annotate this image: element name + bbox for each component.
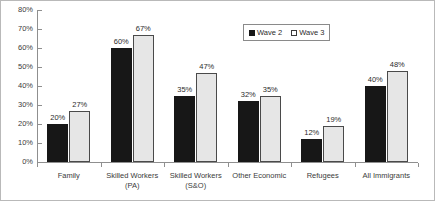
y-axis-tick-label: 60% — [0, 44, 33, 52]
legend-item-wave-2: Wave 2 — [249, 29, 282, 37]
x-axis-category-label: Refugees — [291, 171, 355, 181]
legend-label: Wave 3 — [299, 29, 324, 37]
y-axis-tick-label: 40% — [0, 82, 33, 90]
bar-wave-2 — [365, 86, 386, 162]
bar-value-label: 27% — [64, 101, 95, 109]
x-axis-category-line: (PA) — [101, 181, 165, 191]
bar-wave-3 — [387, 71, 408, 162]
bar-value-label: 48% — [382, 61, 413, 69]
y-axis-tick-label: 80% — [0, 6, 33, 14]
legend: Wave 2 Wave 3 — [243, 24, 330, 41]
x-axis-category-line: Family — [37, 171, 101, 181]
bar-chart: 0%10%20%30%40%50%60%70%80% FamilySkilled… — [0, 0, 436, 202]
x-axis-tick — [291, 163, 292, 167]
x-axis-tick — [228, 163, 229, 167]
x-axis-category-line: Refugees — [291, 171, 355, 181]
y-axis-tick-label: 30% — [0, 101, 33, 109]
bar-wave-3 — [69, 111, 90, 162]
bar-value-label: 19% — [318, 116, 349, 124]
plot-area: 20%27%60%67%35%47%32%35%12%19%40%48% — [37, 10, 418, 162]
x-axis-category-label: Other Economic — [228, 171, 292, 181]
y-axis-tick-label: 50% — [0, 63, 33, 71]
legend-item-wave-3: Wave 3 — [291, 29, 324, 37]
x-axis-category-line: Other Economic — [228, 171, 292, 181]
x-axis-tick — [101, 163, 102, 167]
legend-label: Wave 2 — [257, 29, 282, 37]
bar-value-label: 35% — [255, 86, 286, 94]
legend-swatch-icon — [291, 30, 297, 36]
x-axis-tick — [37, 163, 38, 167]
x-axis-category-label: Family — [37, 171, 101, 181]
x-axis-category-line: Skilled Workers — [164, 171, 228, 181]
x-axis-category-label: Skilled Workers(S&O) — [164, 171, 228, 191]
x-axis-category-line: Skilled Workers — [101, 171, 165, 181]
bar-wave-3 — [133, 35, 154, 162]
x-axis-tick — [164, 163, 165, 167]
bar-value-label: 47% — [191, 63, 222, 71]
x-axis-category-line: (S&O) — [164, 181, 228, 191]
x-axis-tick — [355, 163, 356, 167]
x-axis-tick — [418, 163, 419, 167]
x-axis-category-label: Skilled Workers(PA) — [101, 171, 165, 191]
y-axis-tick-label: 10% — [0, 139, 33, 147]
bar-wave-3 — [260, 96, 281, 163]
legend-swatch-icon — [249, 30, 255, 36]
bar-wave-2 — [47, 124, 68, 162]
y-axis-tick-label: 70% — [0, 25, 33, 33]
bar-wave-3 — [196, 73, 217, 162]
bar-wave-2 — [111, 48, 132, 162]
x-axis-category-line: All Immigrants — [355, 171, 419, 181]
bar-wave-2 — [174, 96, 195, 163]
bar-wave-2 — [238, 101, 259, 162]
bar-wave-2 — [301, 139, 322, 162]
bar-value-label: 67% — [128, 25, 159, 33]
bar-wave-3 — [323, 126, 344, 162]
x-axis-category-label: All Immigrants — [355, 171, 419, 181]
y-axis-tick-label: 0% — [0, 158, 33, 166]
y-axis-tick-label: 20% — [0, 120, 33, 128]
